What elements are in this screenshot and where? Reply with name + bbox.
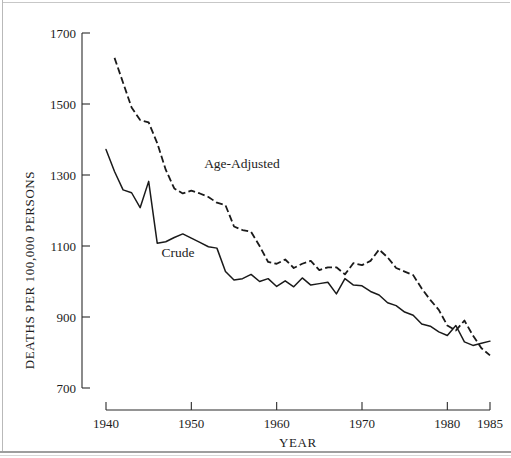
chart-page: 7009001100130015001700194019501960197019… — [0, 0, 511, 458]
chart-series-lines — [106, 58, 490, 355]
series-label-crude: Crude — [161, 245, 194, 260]
y-tick-label: 1300 — [50, 168, 76, 183]
x-tick-label: 1940 — [93, 416, 119, 431]
y-tick-label: 1100 — [50, 239, 76, 254]
series-label-age-adjusted: Age-Adjusted — [204, 156, 280, 171]
x-tick-label: 1950 — [178, 416, 204, 431]
x-tick-label: 1970 — [349, 416, 375, 431]
y-tick-label: 1700 — [50, 26, 76, 41]
chart-axes — [82, 33, 490, 410]
x-axis-title: YEAR — [279, 435, 317, 450]
y-tick-label: 700 — [57, 381, 77, 396]
mortality-line-chart: 7009001100130015001700194019501960197019… — [0, 0, 511, 458]
y-tick-label: 1500 — [50, 97, 76, 112]
series-line-age-adjusted — [115, 58, 490, 355]
x-tick-label: 1960 — [264, 416, 290, 431]
y-axis-title: DEATHS PER 100,000 PERSONS — [22, 171, 37, 369]
chart-tick-labels: 7009001100130015001700194019501960197019… — [50, 26, 503, 432]
y-tick-label: 900 — [57, 310, 77, 325]
x-tick-label: 1980 — [434, 416, 460, 431]
chart-ticks — [82, 33, 490, 410]
x-tick-label: 1985 — [477, 416, 503, 431]
